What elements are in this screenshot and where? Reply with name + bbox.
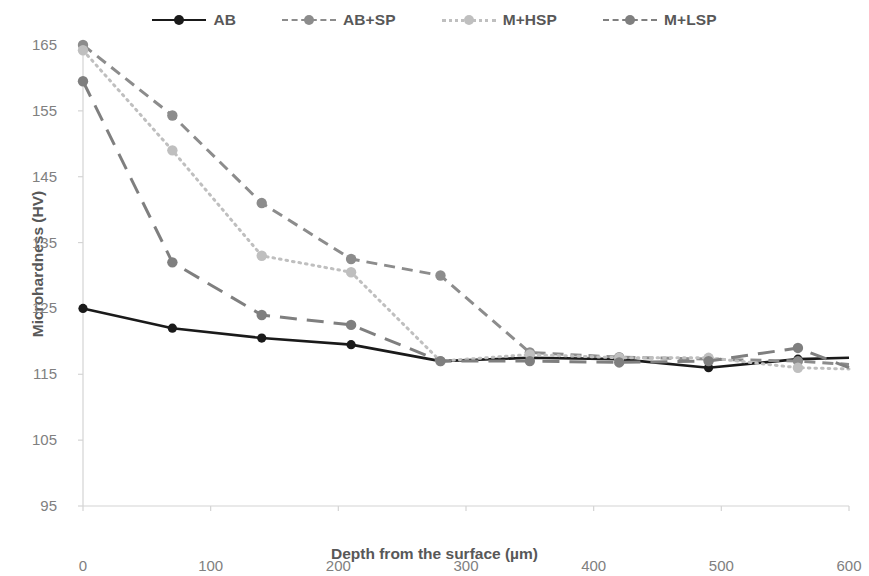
legend-swatch-m-hsp <box>442 13 496 27</box>
data-point-marker <box>257 310 267 320</box>
data-point-marker <box>347 340 356 349</box>
plot-svg <box>83 45 849 506</box>
legend-label-ab-sp: AB+SP <box>343 11 396 29</box>
legend-item-ab-sp[interactable]: AB+SP <box>282 11 396 29</box>
x-tick-label: 400 <box>564 557 624 574</box>
data-point-marker <box>614 357 624 367</box>
data-point-marker <box>167 257 177 267</box>
data-point-marker <box>346 320 356 330</box>
series-ab-sp <box>78 40 849 367</box>
x-tick-label: 100 <box>181 557 241 574</box>
y-tick-label: 105 <box>13 431 57 448</box>
plot-area: 95105115125135145155165 0100200300400500… <box>83 45 849 506</box>
y-tick-label: 155 <box>13 102 57 119</box>
x-tick-label: 300 <box>436 557 496 574</box>
y-tick-label: 95 <box>13 497 57 514</box>
data-point-marker <box>793 363 803 373</box>
data-point-marker <box>78 45 88 55</box>
series-m-lsp <box>78 76 849 368</box>
x-tick-label: 200 <box>308 557 368 574</box>
x-tick-label: 0 <box>53 557 113 574</box>
legend-label-m-lsp: M+LSP <box>664 11 717 29</box>
data-point-marker <box>257 198 267 208</box>
data-point-marker <box>435 356 445 366</box>
series-line <box>83 81 849 367</box>
chart-legend: AB AB+SP M+HSP M+LSP <box>0 6 869 34</box>
data-point-marker <box>167 110 177 120</box>
data-point-marker <box>257 251 267 261</box>
data-point-marker <box>78 76 88 86</box>
legend-label-m-hsp: M+HSP <box>503 11 557 29</box>
x-tick-label: 600 <box>819 557 869 574</box>
y-tick-label: 145 <box>13 168 57 185</box>
data-point-marker <box>525 356 535 366</box>
legend-swatch-m-lsp <box>603 13 657 27</box>
y-tick-label: 115 <box>13 365 57 382</box>
data-point-marker <box>793 343 803 353</box>
legend-swatch-ab-sp <box>282 13 336 27</box>
y-tick-label: 165 <box>13 36 57 53</box>
y-tick-label: 135 <box>13 234 57 251</box>
y-tick-label: 125 <box>13 299 57 316</box>
legend-item-m-lsp[interactable]: M+LSP <box>603 11 717 29</box>
data-point-marker <box>78 304 87 313</box>
data-point-marker <box>703 356 713 366</box>
data-point-marker <box>435 270 445 280</box>
data-point-marker <box>257 333 266 342</box>
data-point-marker <box>167 145 177 155</box>
legend-swatch-ab <box>152 13 206 27</box>
data-point-marker <box>346 267 356 277</box>
legend-label-ab: AB <box>213 11 236 29</box>
series-m-hsp <box>78 45 849 373</box>
x-tick-label: 500 <box>691 557 751 574</box>
series-line <box>83 50 849 369</box>
legend-item-ab[interactable]: AB <box>152 11 236 29</box>
microhardness-depth-chart: AB AB+SP M+HSP M+LSP Microhardness (HV) <box>0 0 869 576</box>
legend-item-m-hsp[interactable]: M+HSP <box>442 11 557 29</box>
data-point-marker <box>346 254 356 264</box>
data-point-marker <box>168 324 177 333</box>
series-line <box>83 45 849 364</box>
